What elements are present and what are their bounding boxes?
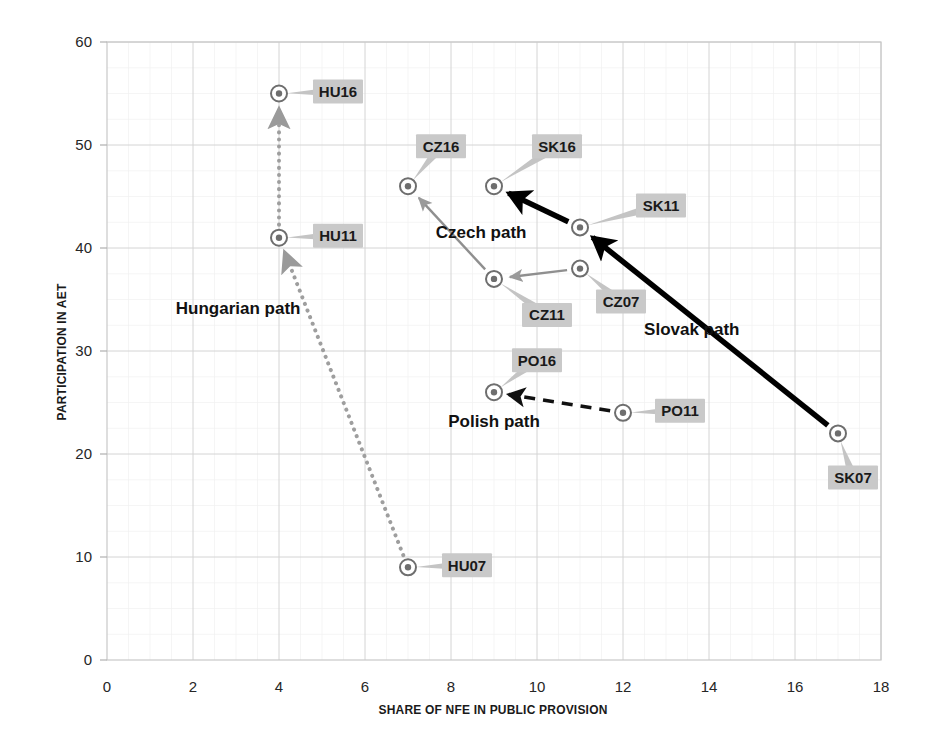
data-point-label: SK07	[834, 469, 872, 486]
scatter-chart-figure: 024681012141618 0102030405060 Hungarian …	[0, 0, 926, 746]
path-segment-slovak-path	[508, 193, 568, 222]
marker-inner-dot	[835, 430, 841, 436]
data-point-marker[interactable]	[486, 178, 502, 194]
data-point-label: CZ16	[423, 138, 460, 155]
data-point-label: CZ07	[603, 293, 640, 310]
marker-inner-dot	[276, 90, 282, 96]
data-point-marker[interactable]	[271, 86, 287, 102]
data-point-label: HU16	[319, 83, 357, 100]
data-point-marker[interactable]	[572, 261, 588, 277]
trajectory-path-labels: Hungarian pathCzech pathSlovak pathPolis…	[176, 223, 740, 432]
data-point-label: PO16	[518, 352, 556, 369]
y-tick-label: 10	[75, 548, 92, 565]
label-leader-lines	[287, 80, 878, 578]
data-point-label: SK16	[538, 138, 576, 155]
x-tick-label: 12	[615, 678, 632, 695]
y-tick-label: 60	[75, 33, 92, 50]
y-axis-title: PARTICIPATION IN AET	[55, 283, 69, 420]
y-tick-label: 50	[75, 136, 92, 153]
path-label-slovak-path: Slovak path	[644, 320, 739, 339]
marker-inner-dot	[491, 276, 497, 282]
data-point-label: CZ11	[529, 306, 565, 323]
y-tick-label: 0	[84, 651, 92, 668]
data-point-marker[interactable]	[830, 425, 846, 441]
data-point-label: PO11	[661, 402, 699, 419]
data-point-label: HU11	[319, 227, 357, 244]
x-axis-tick-labels: 024681012141618	[103, 678, 890, 695]
data-point-label: SK11	[643, 197, 680, 214]
marker-inner-dot	[491, 389, 497, 395]
marker-inner-dot	[276, 235, 282, 241]
data-point-marker[interactable]	[271, 230, 287, 246]
path-label-polish-path: Polish path	[448, 412, 540, 431]
x-tick-label: 6	[361, 678, 369, 695]
x-axis-title: SHARE OF NFE IN PUBLIC PROVISION	[378, 703, 607, 717]
y-axis-tick-labels: 0102030405060	[75, 33, 92, 668]
path-label-czech-path: Czech path	[436, 223, 527, 242]
data-point-marker[interactable]	[400, 178, 416, 194]
marker-inner-dot	[405, 183, 411, 189]
x-tick-label: 18	[873, 678, 890, 695]
axis-tick-marks	[100, 42, 107, 660]
y-tick-label: 20	[75, 445, 92, 462]
x-tick-label: 8	[447, 678, 455, 695]
marker-inner-dot	[491, 183, 497, 189]
marker-inner-dot	[577, 224, 583, 230]
marker-inner-dot	[577, 265, 583, 271]
marker-inner-dot	[405, 564, 411, 570]
data-point-marker[interactable]	[400, 559, 416, 575]
path-segment-hungarian-path	[284, 252, 403, 556]
data-point-marker[interactable]	[615, 405, 631, 421]
data-point-labels: HU16HU11HU07CZ16CZ11CZ07SK16SK11SK07PO16…	[319, 83, 872, 574]
x-tick-label: 14	[701, 678, 718, 695]
x-tick-label: 10	[529, 678, 546, 695]
x-tick-label: 0	[103, 678, 111, 695]
x-tick-label: 4	[275, 678, 283, 695]
trajectory-paths	[279, 109, 828, 556]
marker-inner-dot	[620, 410, 626, 416]
path-label-hungarian-path: Hungarian path	[176, 299, 301, 318]
y-tick-label: 30	[75, 342, 92, 359]
data-point-marker[interactable]	[572, 219, 588, 235]
y-tick-label: 40	[75, 239, 92, 256]
data-point-label: HU07	[448, 557, 486, 574]
data-point-marker[interactable]	[486, 384, 502, 400]
data-point-marker[interactable]	[486, 271, 502, 287]
chart-canvas: 024681012141618 0102030405060 Hungarian …	[0, 0, 926, 746]
x-tick-label: 16	[787, 678, 804, 695]
x-tick-label: 2	[189, 678, 197, 695]
